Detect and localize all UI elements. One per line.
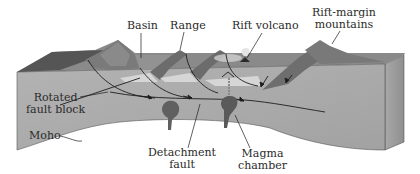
label-moho: Moho <box>29 130 61 142</box>
block-side-face <box>385 55 404 150</box>
label-rift-margin-mountains: Rift-margin mountains <box>312 7 376 31</box>
label-range: Range <box>170 20 206 32</box>
magma-chamber-left <box>162 101 179 130</box>
label-rift-margin-line2: mountains <box>312 19 376 31</box>
label-magma-line2: chamber <box>238 160 287 172</box>
label-rotated-line2: fault block <box>26 104 85 116</box>
volcano-haze <box>214 54 242 62</box>
rift-margin-mountains <box>305 40 385 64</box>
label-detachment-fault: Detachment fault <box>148 147 216 171</box>
label-detachment-line2: fault <box>148 159 216 171</box>
label-rift-volcano: Rift volcano <box>232 20 299 32</box>
label-basin: Basin <box>127 20 158 32</box>
label-magma-chamber: Magma chamber <box>238 148 287 172</box>
label-rotated-fault-block: Rotated fault block <box>26 92 85 116</box>
